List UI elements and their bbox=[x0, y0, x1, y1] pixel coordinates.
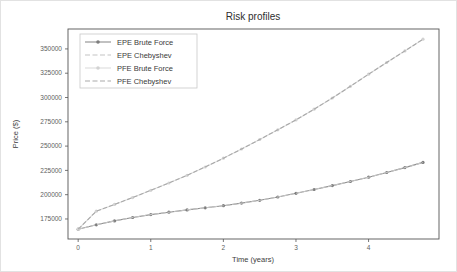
y-tick-label: 225000 bbox=[40, 167, 62, 174]
legend-label: EPE Brute Force bbox=[117, 38, 173, 47]
x-tick-label: 4 bbox=[367, 244, 371, 251]
series-epe-brute-force-markers bbox=[77, 161, 425, 231]
chart-title: Risk profiles bbox=[226, 11, 280, 22]
y-tick-label: 250000 bbox=[40, 142, 62, 149]
series-epe-brute-force bbox=[78, 162, 423, 229]
y-tick-label: 175000 bbox=[40, 215, 62, 222]
x-tick-label: 2 bbox=[222, 244, 226, 251]
series-epe-chebyshev bbox=[78, 162, 423, 229]
risk-profiles-chart: Risk profiles 01234175000200000225000250… bbox=[1, 1, 456, 271]
legend: EPE Brute Force EPE Chebyshev PFE Brute … bbox=[80, 34, 197, 88]
y-tick-label: 200000 bbox=[40, 191, 62, 198]
legend-label: PFE Brute Force bbox=[117, 64, 173, 73]
x-tick-label: 3 bbox=[294, 244, 298, 251]
y-tick-label: 300000 bbox=[40, 94, 62, 101]
y-axis-label: Price ($) bbox=[11, 119, 20, 148]
epe-brute-force-marker-icon bbox=[96, 40, 100, 44]
legend-label: EPE Chebyshev bbox=[117, 51, 172, 60]
legend-label: PFE Chebyshev bbox=[117, 77, 171, 86]
y-tick-label: 350000 bbox=[40, 45, 62, 52]
risk-profiles-figure: Risk profiles 01234175000200000225000250… bbox=[0, 0, 457, 272]
x-tick-label: 1 bbox=[149, 244, 153, 251]
x-axis-label: Time (years) bbox=[232, 255, 274, 264]
pfe-brute-force-marker-icon bbox=[96, 66, 100, 70]
y-tick-label: 325000 bbox=[40, 69, 62, 76]
y-tick-label: 275000 bbox=[40, 118, 62, 125]
x-tick-label: 0 bbox=[76, 244, 80, 251]
